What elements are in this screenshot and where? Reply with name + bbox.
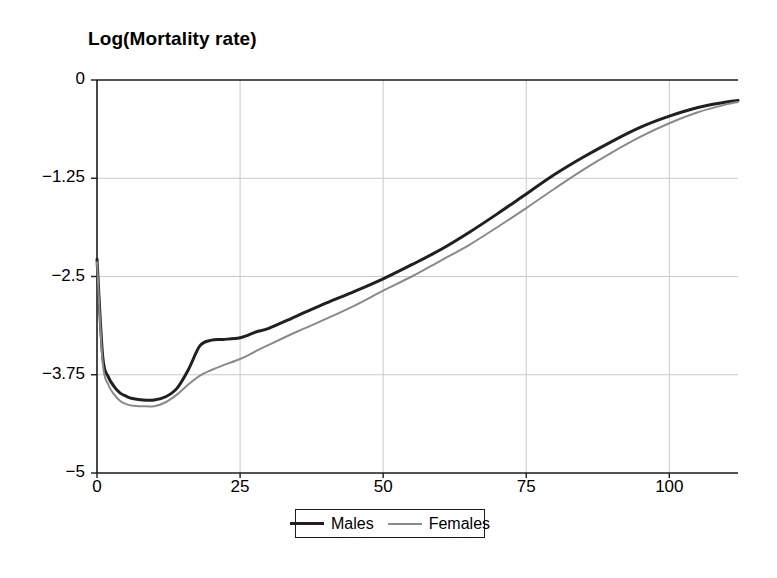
y-tick-label-text: −2.5 [51,266,85,286]
x-tick-label: 100 [655,477,683,497]
legend-line-swatch-males-icon [290,522,324,525]
y-tick-label-text: −5 [66,462,85,482]
chart-figure: Log(Mortality rate) 0−1.25−2.5−3.75−5 02… [0,0,777,578]
series-line-males [97,100,738,400]
x-tick-label: 75 [517,477,536,497]
x-tick-label: 50 [374,477,393,497]
legend-entry-females: Females [388,515,490,533]
y-tick-label-text: 0 [76,69,85,89]
x-tick-label: 0 [92,477,101,497]
y-tick-label-text: −3.75 [42,364,85,384]
data-series-group [97,100,738,406]
legend-line-swatch-females-icon [388,523,422,525]
legend-entry-males: Males [290,515,374,533]
gridlines-group [97,80,738,473]
legend-label-males: Males [331,515,374,533]
y-tick-label-text: −1.25 [42,167,85,187]
chart-legend: Males Females [295,509,485,538]
x-tick-label: 25 [231,477,250,497]
legend-label-females: Females [429,515,490,533]
